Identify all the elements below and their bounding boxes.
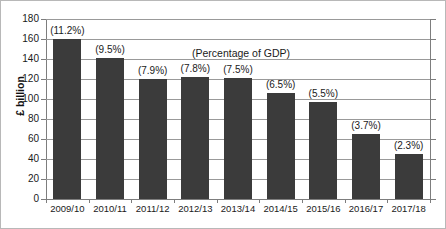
y-axis-tick-label: 120 xyxy=(1,74,39,84)
gridline xyxy=(46,39,430,40)
y-axis-tick xyxy=(41,79,46,80)
y-axis-tick xyxy=(41,159,46,160)
y-axis-tick-right xyxy=(431,99,436,100)
y-axis-tick xyxy=(41,119,46,120)
y-axis-line-right xyxy=(430,19,431,200)
y-axis-tick-right xyxy=(431,159,436,160)
bar xyxy=(352,134,380,199)
bar xyxy=(53,39,81,199)
x-axis-tick-label: 2014/15 xyxy=(257,203,305,214)
bar-value-label: (11.2%) xyxy=(41,25,93,36)
x-axis-tick xyxy=(302,199,303,203)
y-axis-tick-label: 140 xyxy=(1,54,39,64)
x-axis-tick xyxy=(89,199,90,203)
bar xyxy=(181,77,209,199)
y-axis-tick-right xyxy=(431,59,436,60)
y-axis-tick-label: 100 xyxy=(1,94,39,104)
x-axis-tick xyxy=(217,199,218,203)
x-axis-tick-label: 2012/13 xyxy=(171,203,219,214)
x-axis-tick-label: 2009/10 xyxy=(43,203,91,214)
x-axis-tick xyxy=(345,199,346,203)
x-axis-tick xyxy=(46,199,47,203)
y-axis-tick xyxy=(41,179,46,180)
y-axis-tick-label: 180 xyxy=(1,14,39,24)
x-axis-tick xyxy=(259,199,260,203)
bar-chart: £ billion 020406080100120140160180 (Perc… xyxy=(0,0,446,229)
y-axis-tick xyxy=(41,59,46,60)
x-axis-tick-label: 2017/18 xyxy=(385,203,433,214)
bar xyxy=(267,93,295,199)
bar xyxy=(224,78,252,199)
y-axis-tick-right xyxy=(431,19,436,20)
y-axis-tick-label: 20 xyxy=(1,174,39,184)
x-axis-tick-label: 2016/17 xyxy=(342,203,390,214)
gridline xyxy=(46,19,430,20)
bar-value-label: (7.5%) xyxy=(212,64,264,75)
y-axis-tick xyxy=(41,19,46,20)
x-axis-tick-label: 2013/14 xyxy=(214,203,262,214)
bar xyxy=(309,102,337,199)
y-axis-tick xyxy=(41,139,46,140)
x-axis-tick xyxy=(131,199,132,203)
x-axis-tick-label: 2015/16 xyxy=(299,203,347,214)
x-axis-tick-label: 2010/11 xyxy=(86,203,134,214)
chart-annotation: (Percentage of GDP) xyxy=(192,47,290,59)
gridline xyxy=(46,199,430,200)
y-axis-tick-label: 40 xyxy=(1,154,39,164)
y-axis-tick-right xyxy=(431,199,436,200)
y-axis-tick-right xyxy=(431,39,436,40)
y-axis-tick-label: 160 xyxy=(1,34,39,44)
y-axis-tick-right xyxy=(431,119,436,120)
x-axis-tick-label: 2011/12 xyxy=(129,203,177,214)
y-axis-tick-right xyxy=(431,79,436,80)
y-axis-tick xyxy=(41,99,46,100)
y-axis-tick-labels: 020406080100120140160180 xyxy=(0,19,39,200)
bar-value-label: (5.5%) xyxy=(297,88,349,99)
y-axis-tick xyxy=(41,39,46,40)
bar xyxy=(96,58,124,199)
x-axis-tick xyxy=(387,199,388,203)
bar-value-label: (9.5%) xyxy=(84,44,136,55)
x-axis-tick xyxy=(430,199,431,203)
bar xyxy=(395,154,423,199)
bar-value-label: (3.7%) xyxy=(340,120,392,131)
y-axis-tick-label: 60 xyxy=(1,134,39,144)
y-axis-tick-label: 0 xyxy=(1,194,39,204)
bar-value-label: (2.3%) xyxy=(383,140,435,151)
y-axis-tick-right xyxy=(431,179,436,180)
y-axis-tick-label: 80 xyxy=(1,114,39,124)
bar xyxy=(139,79,167,199)
x-axis-tick xyxy=(174,199,175,203)
